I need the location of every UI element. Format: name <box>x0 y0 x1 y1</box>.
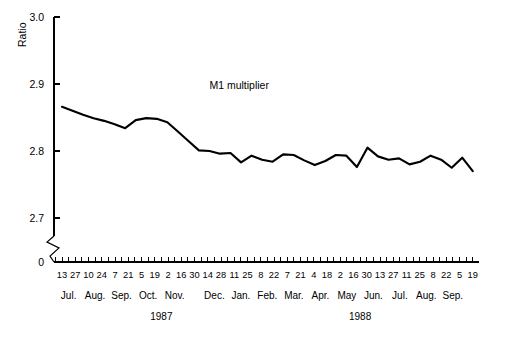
m1-multiplier-line-chart: 3.02.92.82.70 M1 multiplier 132710247215… <box>0 0 507 338</box>
x-tick-label: 13 <box>375 270 385 280</box>
x-tick-label: 28 <box>216 270 226 280</box>
x-tick-label: 19 <box>150 270 160 280</box>
axis-break-symbol <box>47 236 59 262</box>
x-tick-label: 8 <box>430 270 435 280</box>
x-tick-label: 21 <box>295 270 305 280</box>
y-tick-label: 2.8 <box>29 145 44 157</box>
x-tick-label: 30 <box>189 270 199 280</box>
x-tick-label: 8 <box>258 270 263 280</box>
x-tick-label: 7 <box>285 270 290 280</box>
x-tick-label: 14 <box>203 270 213 280</box>
x-tick-label: 7 <box>112 270 117 280</box>
x-tick-label: 16 <box>348 270 358 280</box>
x-month-label: Aug. <box>416 290 437 301</box>
x-year-label: 1987 <box>150 311 173 322</box>
x-tick-label: 24 <box>97 270 107 280</box>
data-series-group: M1 multiplier <box>62 79 473 171</box>
x-tick-label: 16 <box>176 270 186 280</box>
x-month-label: Apr. <box>311 290 329 301</box>
x-tick-label: 27 <box>388 270 398 280</box>
x-tick-label: 30 <box>362 270 372 280</box>
x-axis <box>54 257 479 262</box>
y-axis: 3.02.92.82.70 <box>29 11 60 268</box>
x-month-label: Jul. <box>61 290 77 301</box>
x-month-label: Mar. <box>284 290 303 301</box>
x-tick-label: 10 <box>83 270 93 280</box>
axis-labels-group: 1327102472151921630142811258227214182163… <box>57 270 478 322</box>
x-tick-label: 13 <box>57 270 67 280</box>
x-tick-label: 11 <box>402 270 412 280</box>
x-month-label: Feb. <box>257 290 277 301</box>
x-tick-label: 2 <box>165 270 170 280</box>
y-axis-title: Ratio <box>16 22 28 47</box>
x-month-label: Jul. <box>392 290 408 301</box>
x-tick-label: 19 <box>468 270 478 280</box>
y-tick-label: 3.0 <box>29 11 44 23</box>
x-month-label: Oct. <box>139 290 157 301</box>
x-tick-label: 22 <box>269 270 279 280</box>
x-month-label: Jun. <box>364 290 383 301</box>
x-month-label: Jan. <box>231 290 250 301</box>
x-tick-label: 25 <box>415 270 425 280</box>
x-tick-label: 5 <box>457 270 462 280</box>
x-tick-label: 5 <box>139 270 144 280</box>
x-tick-label: 11 <box>229 270 239 280</box>
x-month-label: Sep. <box>443 290 464 301</box>
x-month-label: Dec. <box>204 290 225 301</box>
y-axis-zero-label: 0 <box>38 256 44 268</box>
x-month-label: Nov. <box>165 290 185 301</box>
x-tick-label: 18 <box>322 270 332 280</box>
x-month-label: May <box>337 290 356 301</box>
y-tick-label: 2.9 <box>29 78 44 90</box>
x-tick-label: 21 <box>123 270 133 280</box>
x-month-label: Aug. <box>85 290 106 301</box>
x-tick-label: 25 <box>242 270 252 280</box>
x-tick-label: 2 <box>338 270 343 280</box>
series-annotation-label: M1 multiplier <box>209 79 269 91</box>
x-tick-label: 27 <box>70 270 80 280</box>
x-tick-label: 4 <box>311 270 316 280</box>
x-tick-label: 22 <box>441 270 451 280</box>
chart-container: 3.02.92.82.70 M1 multiplier 132710247215… <box>0 0 507 338</box>
x-year-label: 1988 <box>349 311 372 322</box>
y-tick-label: 2.7 <box>29 212 44 224</box>
x-month-label: Sep. <box>111 290 132 301</box>
m1-multiplier-line <box>62 107 473 171</box>
